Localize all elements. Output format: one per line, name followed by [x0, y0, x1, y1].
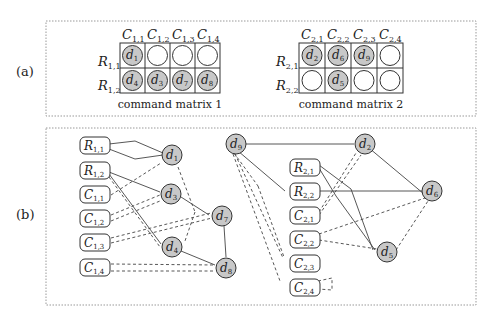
- panel-a-label: (a): [16, 64, 34, 79]
- col-label-c13: C1,3: [172, 27, 195, 44]
- col-label-c21: C2,1: [301, 27, 324, 44]
- col-label-c23: C2,3: [353, 27, 376, 44]
- col-label-c14: C1,4: [197, 27, 220, 44]
- col-label-c11: C1,1: [122, 27, 145, 44]
- command-matrix-2: C2,1 C2,2 C2,3 C2,4 R2,1 R2,2 d2 d6 d9 d…: [275, 27, 403, 111]
- row-label-r21: R2,1: [275, 54, 299, 71]
- right-boxes: R2,1 R2,2 C2,1 C2,2 C2,3 C2,4: [290, 159, 320, 296]
- panel-b-label: (b): [16, 207, 34, 222]
- col-label-c24: C2,4: [379, 27, 402, 44]
- row-label-r12: R1,2: [97, 78, 121, 95]
- row-label-r22: R2,2: [275, 78, 299, 95]
- matrix-2-caption: command matrix 2: [299, 98, 404, 111]
- command-matrix-1: C1,1 C1,2 C1,3 C1,4 R1,1 R1,2 d1 d4 d3 d…: [97, 27, 222, 111]
- left-boxes: R1,1 R1,2 C1,1 C1,2 C1,3 C1,4: [80, 137, 110, 276]
- graph-edges: [109, 141, 428, 290]
- diagram-canvas: (a) (b) C1,1 C1,2 C1,3 C1,4 R1,1 R1,2 d1…: [0, 0, 484, 323]
- col-label-c22: C2,2: [327, 27, 350, 44]
- col-label-c12: C1,2: [147, 27, 170, 44]
- matrix-1-caption: command matrix 1: [118, 98, 223, 111]
- row-label-r11: R1,1: [97, 54, 121, 71]
